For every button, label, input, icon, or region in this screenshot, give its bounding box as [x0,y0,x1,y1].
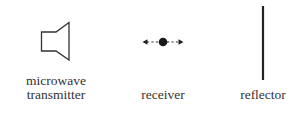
transmitter-label-line2: transmitter [10,88,102,102]
receiver-label: receiver [123,88,203,102]
receiver-label-text: receiver [123,88,203,102]
receiver-icon [143,38,184,47]
transmitter-label-line1: microwave [10,74,102,88]
transmitter-label: microwave transmitter [10,74,102,102]
transmitter-horn-icon [42,23,70,61]
reflector-label-text: reflector [223,88,302,102]
reflector-label: reflector [223,88,302,102]
